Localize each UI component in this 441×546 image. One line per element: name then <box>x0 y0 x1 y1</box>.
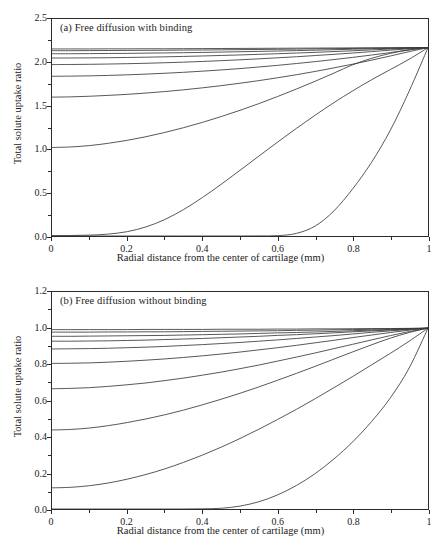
y-tick-minor <box>48 346 51 347</box>
y-axis-label-b: Total solute uptake ratio <box>12 307 23 467</box>
y-tick-mark <box>47 291 51 292</box>
x-tick-minor <box>164 237 165 240</box>
y-axis-ticks-a: 0.00.51.01.52.02.5 <box>0 18 47 237</box>
x-tick-minor <box>391 237 392 240</box>
y-tick-label: 0.0 <box>3 232 47 242</box>
y-tick-minor <box>48 84 51 85</box>
y-tick-label: 2.5 <box>3 13 47 23</box>
x-tick-mark <box>278 237 279 241</box>
x-tick-minor <box>240 510 241 513</box>
y-tick-label: 0.6 <box>3 396 47 406</box>
y-tick-label: 1.0 <box>3 144 47 154</box>
x-tick-minor <box>89 510 90 513</box>
y-tick-label: 0.8 <box>3 359 47 369</box>
y-tick-minor <box>48 382 51 383</box>
x-tick-mark <box>202 510 203 514</box>
y-tick-label: 1.0 <box>3 323 47 333</box>
y-tick-minor <box>48 309 51 310</box>
panel-a: (a) Free diffusion with binding 0.00.51.… <box>0 0 441 273</box>
curve-t3 <box>52 328 428 430</box>
y-tick-mark <box>47 193 51 194</box>
x-tick-mark <box>353 237 354 241</box>
x-tick-mark <box>429 510 430 514</box>
x-tick-mark <box>429 237 430 241</box>
y-tick-minor <box>48 419 51 420</box>
y-tick-minor <box>48 492 51 493</box>
x-tick-minor <box>391 510 392 513</box>
y-tick-label: 1.5 <box>3 101 47 111</box>
y-tick-minor <box>48 40 51 41</box>
x-tick-minor <box>240 237 241 240</box>
x-tick-minor <box>316 510 317 513</box>
y-tick-label: 2.0 <box>3 57 47 67</box>
x-tick-mark <box>202 237 203 241</box>
x-tick-mark <box>51 510 52 514</box>
y-axis-label-a: Total solute uptake ratio <box>12 34 23 194</box>
x-tick-mark <box>127 510 128 514</box>
y-tick-minor <box>48 455 51 456</box>
x-tick-minor <box>89 237 90 240</box>
y-tick-label: 0.4 <box>3 432 47 442</box>
y-tick-minor <box>48 171 51 172</box>
y-tick-minor <box>48 128 51 129</box>
y-tick-label: 1.2 <box>3 286 47 296</box>
x-tick-mark <box>127 237 128 241</box>
x-tick-mark <box>353 510 354 514</box>
y-tick-mark <box>47 364 51 365</box>
curves-panel-b <box>52 292 428 509</box>
panel-a-title: (a) Free diffusion with binding <box>60 22 192 33</box>
panel-b: (b) Free diffusion without binding 0.00.… <box>0 273 441 546</box>
y-tick-mark <box>47 62 51 63</box>
x-tick-mark <box>278 510 279 514</box>
figure-container: (a) Free diffusion with binding 0.00.51.… <box>0 0 441 546</box>
curve-t5 <box>52 328 428 363</box>
y-tick-label: 0.5 <box>3 188 47 198</box>
y-tick-mark <box>47 328 51 329</box>
curves-panel-a <box>52 19 428 236</box>
plot-area-b <box>51 291 429 510</box>
curve-t3 <box>52 48 428 148</box>
y-tick-mark <box>47 149 51 150</box>
x-tick-minor <box>316 237 317 240</box>
y-tick-mark <box>47 401 51 402</box>
x-axis-label-b: Radial distance from the center of carti… <box>0 525 441 536</box>
curve-t1 <box>52 328 428 509</box>
y-tick-minor <box>48 215 51 216</box>
x-tick-mark <box>51 237 52 241</box>
y-tick-mark <box>47 474 51 475</box>
y-tick-mark <box>47 18 51 19</box>
y-tick-label: 0.2 <box>3 469 47 479</box>
curve-t1 <box>52 48 428 236</box>
y-tick-mark <box>47 437 51 438</box>
y-axis-ticks-b: 0.00.20.40.60.81.01.2 <box>0 291 47 510</box>
y-tick-mark <box>47 106 51 107</box>
y-tick-label: 0.0 <box>3 505 47 515</box>
panel-b-title: (b) Free diffusion without binding <box>60 295 207 306</box>
x-axis-label-a: Radial distance from the center of carti… <box>0 252 441 263</box>
plot-area-a <box>51 18 429 237</box>
x-tick-minor <box>164 510 165 513</box>
